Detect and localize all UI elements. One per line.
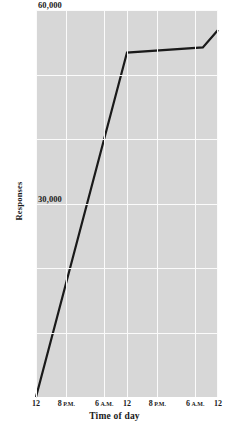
gridline-vertical	[66, 10, 67, 397]
x-axis-title: Time of day	[0, 411, 229, 421]
chart-figure: Responses Time of day 60,00030,000128 P.…	[0, 0, 229, 429]
plot-area	[36, 10, 218, 397]
x-axis-tick-label: 6 A.M.	[95, 399, 113, 408]
x-axis-tick-label: 12	[32, 399, 40, 408]
gridline-vertical	[104, 10, 105, 397]
x-axis-tick-label: 6 A.M.	[186, 399, 204, 408]
y-axis-tick-label: 30,000	[38, 194, 62, 204]
gridline-vertical	[127, 10, 128, 397]
y-axis-tick-label: 60,000	[38, 0, 62, 10]
gridline-vertical	[36, 10, 37, 397]
y-axis-title: Responses	[14, 161, 24, 241]
gridline-vertical	[195, 10, 196, 397]
gridline-vertical	[217, 10, 218, 397]
x-axis-tick-label: 12	[123, 399, 131, 408]
x-axis-tick-label: 8 P.M.	[58, 399, 75, 408]
x-axis-tick-label: 12	[214, 399, 222, 408]
gridline-vertical	[157, 10, 158, 397]
x-axis-tick-label: 8 P.M.	[149, 399, 166, 408]
